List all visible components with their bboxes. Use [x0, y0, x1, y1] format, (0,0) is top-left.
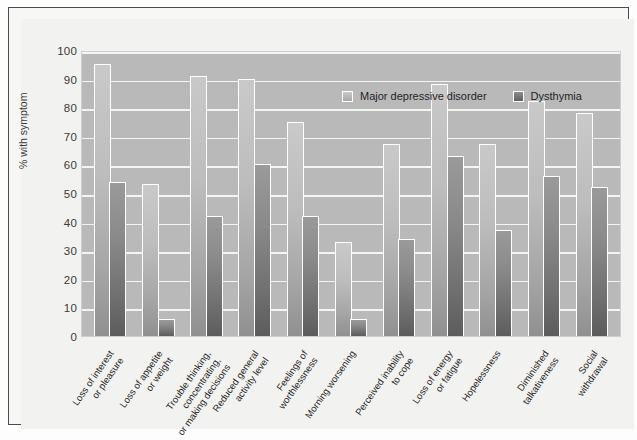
plot-area: Major depressive disorder Dysthymia [81, 51, 621, 337]
y-axis-tick-label: 30 [43, 245, 77, 257]
bar-major-depressive-disorder[interactable] [287, 122, 304, 337]
bar-major-depressive-disorder[interactable] [190, 76, 207, 336]
bar-dysthymia[interactable] [109, 182, 126, 336]
bar-major-depressive-disorder[interactable] [528, 101, 545, 336]
bar-dysthymia[interactable] [206, 216, 223, 336]
bar-major-depressive-disorder[interactable] [431, 84, 448, 336]
legend-item-dysthymia[interactable]: Dysthymia [513, 90, 582, 102]
bar-group [231, 52, 279, 336]
bar-dysthymia[interactable] [543, 176, 560, 336]
legend-label: Dysthymia [531, 90, 582, 102]
y-axis-tick-label: 0 [43, 331, 77, 343]
bar-major-depressive-disorder[interactable] [576, 113, 593, 336]
legend-swatch-icon [513, 91, 524, 102]
bar-dysthymia[interactable] [591, 187, 608, 336]
legend-item-major-depressive-disorder[interactable]: Major depressive disorder [342, 90, 487, 102]
bar-group [134, 52, 182, 336]
bar-dysthymia[interactable] [158, 319, 175, 336]
bar-major-depressive-disorder[interactable] [142, 184, 159, 336]
y-axis-tick-label: 70 [43, 131, 77, 143]
chart-legend: Major depressive disorder Dysthymia [342, 90, 582, 102]
bar-dysthymia[interactable] [350, 319, 367, 336]
bar-major-depressive-disorder[interactable] [94, 64, 111, 336]
y-axis-tick-label: 60 [43, 159, 77, 171]
page-panel: % with symptom 1009080706050403020100 Ma… [21, 19, 634, 429]
bar-group [86, 52, 134, 336]
y-axis-tick-label: 90 [43, 74, 77, 86]
x-axis-label-slot: Social withdrawal [569, 341, 617, 440]
y-axis-tick-label: 50 [43, 188, 77, 200]
chart-page: % with symptom 1009080706050403020100 Ma… [0, 0, 637, 440]
bar-dysthymia[interactable] [302, 216, 319, 336]
y-axis-ticks: 1009080706050403020100 [33, 51, 77, 337]
bar-major-depressive-disorder[interactable] [238, 79, 255, 336]
bar-dysthymia[interactable] [254, 164, 271, 336]
bar-group [182, 52, 230, 336]
bar-dysthymia[interactable] [398, 239, 415, 336]
bar-major-depressive-disorder[interactable] [335, 242, 352, 336]
bar-dysthymia[interactable] [495, 230, 512, 336]
legend-swatch-icon [342, 91, 353, 102]
y-axis-tick-label: 20 [43, 274, 77, 286]
bar-group [279, 52, 327, 336]
legend-label: Major depressive disorder [360, 90, 487, 102]
bar-major-depressive-disorder[interactable] [479, 144, 496, 336]
y-axis-tick-label: 80 [43, 102, 77, 114]
bar-dysthymia[interactable] [447, 156, 464, 336]
bar-major-depressive-disorder[interactable] [383, 144, 400, 336]
y-axis-title: % with symptom [17, 93, 29, 169]
y-axis-tick-label: 40 [43, 217, 77, 229]
y-axis-tick-label: 10 [43, 302, 77, 314]
page-frame: % with symptom 1009080706050403020100 Ma… [8, 7, 629, 425]
y-axis-tick-label: 100 [43, 45, 77, 57]
x-axis-labels: Loss of interest or pleasureLoss of appe… [81, 341, 621, 440]
